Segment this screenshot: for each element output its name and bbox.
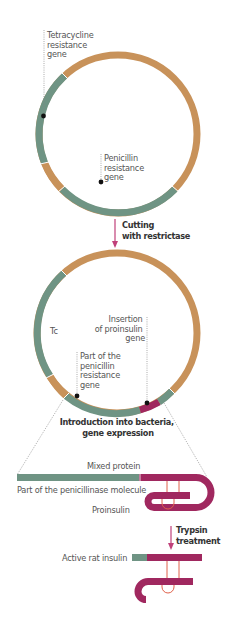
- partial-pen-marker: [75, 394, 80, 399]
- insertion-marker: [145, 401, 150, 406]
- trypsin-arrow: [168, 526, 174, 550]
- pen-label: Penicillin resistance gene: [104, 153, 146, 182]
- pen-marker: [99, 180, 104, 185]
- cutting-label: Cutting with restrictase: [122, 220, 191, 241]
- original-plasmid: [39, 55, 197, 213]
- mixed-protein-label: Mixed protein: [87, 461, 140, 471]
- partial-pen-label: Part of the penicillin resistance gene: [80, 351, 123, 390]
- trypsin-label: Trypsin treatment: [176, 525, 220, 546]
- cutting-arrow: [112, 219, 118, 248]
- expression-label: Introduction into bacteria, gene express…: [60, 417, 177, 438]
- active-insulin-label: Active rat insulin: [62, 553, 127, 563]
- tc-label: Tc: [49, 326, 58, 336]
- zoom-line-right: [164, 403, 207, 477]
- plasmid-diagram: Tetracycline resistance gene Penicillin …: [0, 0, 235, 626]
- insertion-label: Insertion of proinsulin gene: [95, 314, 146, 343]
- tet-label: Tetracycline resistance gene: [46, 30, 96, 59]
- zoom-line-left: [17, 400, 63, 475]
- tet-marker: [41, 114, 46, 119]
- penicillinase-label: Part of the penicillinase molecule: [17, 485, 146, 495]
- active-insulin-chain: [132, 554, 202, 600]
- proinsulin-label: Proinsulin: [92, 505, 130, 515]
